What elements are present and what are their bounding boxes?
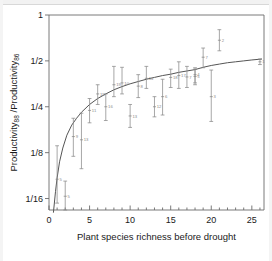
y-tick-label: 1/2 xyxy=(30,56,43,66)
point-sample-size-label: 10 xyxy=(124,81,129,86)
y-tick-label: 1/8 xyxy=(30,148,43,158)
data-point: 1 xyxy=(258,59,265,65)
point-sample-size-label: 12 xyxy=(157,104,162,109)
data-point: 19 xyxy=(112,66,122,96)
x-tick-label: 15 xyxy=(166,215,176,225)
scatter-plot: 11/21/41/81/16 0510152025 55913111516191… xyxy=(0,0,272,261)
y-title-part-mid: /Productivity xyxy=(8,61,19,116)
y-tick-label: 1/4 xyxy=(30,102,43,112)
data-point: 7 xyxy=(201,48,208,68)
y-tick-label: 1/16 xyxy=(25,194,43,204)
data-point: 2 xyxy=(217,30,224,51)
fitted-curve xyxy=(53,59,261,212)
y-tick-label: 1 xyxy=(38,10,43,20)
x-axis-title: Plant species richness before drought xyxy=(77,231,236,242)
point-sample-size-label: 5 xyxy=(68,194,71,199)
x-tick-label: 10 xyxy=(125,215,135,225)
point-sample-size-label: 5 xyxy=(197,74,200,79)
figure-container: 11/21/41/81/16 0510152025 55913111516191… xyxy=(0,0,272,261)
data-point: 10 xyxy=(120,67,130,94)
point-sample-size-label: 9 xyxy=(76,134,79,139)
point-sample-size-label: 1 xyxy=(262,59,265,64)
data-point: 18 xyxy=(169,69,179,87)
data-point: 13 xyxy=(80,113,90,169)
x-tick-label: 20 xyxy=(206,215,216,225)
data-point: 14 xyxy=(144,66,154,88)
point-sample-size-label: 13 xyxy=(132,114,137,119)
data-point: 7 xyxy=(185,66,192,87)
x-tick-label: 25 xyxy=(247,215,257,225)
y-axis: 11/21/41/81/16 xyxy=(25,10,49,204)
point-sample-size-label: 7 xyxy=(205,55,208,60)
data-points-group: 5591311151619101381412618177457321 xyxy=(55,30,265,210)
point-sample-size-label: 17 xyxy=(181,73,186,78)
point-sample-size-label: 11 xyxy=(92,108,97,113)
y-title-part-main: Productivity xyxy=(8,122,19,171)
point-sample-size-label: 8 xyxy=(141,84,144,89)
x-tick-label: 0 xyxy=(46,215,51,225)
fit-curve-path xyxy=(53,59,261,212)
data-point: 5 xyxy=(63,181,70,210)
point-sample-size-label: 2 xyxy=(222,38,225,43)
point-sample-size-label: 6 xyxy=(165,94,168,99)
point-sample-size-label: 16 xyxy=(108,104,113,109)
point-sample-size-label: 14 xyxy=(149,76,154,81)
data-point: 17 xyxy=(177,62,187,89)
point-sample-size-label: 5 xyxy=(59,177,62,182)
x-axis: 0510152025 xyxy=(46,206,259,226)
data-point: 15 xyxy=(96,85,106,105)
data-point: 8 xyxy=(136,75,143,98)
data-point: 16 xyxy=(104,94,114,121)
point-sample-size-label: 13 xyxy=(84,137,89,142)
data-point: 13 xyxy=(128,104,138,127)
y-title-sub-86: 86 xyxy=(13,53,20,61)
data-point: 3 xyxy=(209,70,216,121)
data-point: 12 xyxy=(153,97,163,117)
point-sample-size-label: 7 xyxy=(189,75,192,80)
data-point: 6 xyxy=(161,79,168,115)
x-tick-label: 5 xyxy=(87,215,92,225)
point-sample-size-label: 3 xyxy=(214,94,217,99)
y-axis-title: Productivity88 /Productivity86 xyxy=(8,53,20,171)
